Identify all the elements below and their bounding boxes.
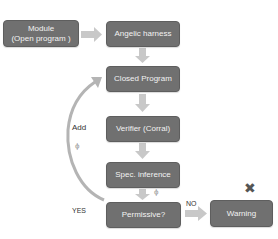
arrow-module-to-angelic xyxy=(81,27,102,42)
node-module-line2: (Open program ) xyxy=(11,34,70,44)
node-warning-label: Warning xyxy=(227,209,257,219)
node-warning: Warning xyxy=(210,200,273,227)
arrow-loop-yes-add xyxy=(68,82,104,200)
node-module-line1: Module xyxy=(28,24,54,34)
node-closed-program-label: Closed Program xyxy=(114,74,172,84)
node-angelic-harness-label: Angelic harness xyxy=(115,29,172,39)
node-module: Module (Open program ) xyxy=(3,20,79,47)
label-phi-spec: ϕ xyxy=(154,187,158,196)
arrow-angelic-to-closed xyxy=(135,48,150,63)
label-no: NO xyxy=(186,200,197,207)
node-spec-inference: Spec. inference xyxy=(106,162,180,188)
label-phi-loop: ϕ xyxy=(75,141,79,150)
arrow-spec-to-permissive xyxy=(135,189,150,200)
node-verifier: Verifier (Corral) xyxy=(106,116,180,142)
node-spec-inference-label: Spec. inference xyxy=(115,170,171,180)
node-permissive: Permissive? xyxy=(106,202,181,228)
reject-x-icon: ✖ xyxy=(244,180,256,196)
arrow-verifier-to-spec xyxy=(135,143,150,159)
node-permissive-label: Permissive? xyxy=(122,210,166,220)
label-yes: YES xyxy=(72,207,86,214)
node-closed-program: Closed Program xyxy=(106,66,180,92)
label-add: Add xyxy=(72,123,86,132)
arrow-permissive-to-warning xyxy=(185,206,207,221)
node-angelic-harness: Angelic harness xyxy=(106,21,180,47)
arrow-closed-to-verifier xyxy=(135,94,150,112)
node-verifier-label: Verifier (Corral) xyxy=(116,124,170,134)
